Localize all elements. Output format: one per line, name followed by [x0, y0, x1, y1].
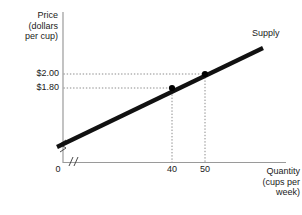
- x-tick-label-qty-50: 50: [195, 164, 215, 175]
- data-point-40-180: [169, 85, 175, 91]
- x-axis-break-icon: [69, 157, 78, 166]
- y-axis-title: Price (dollars per cup): [0, 10, 58, 42]
- origin-label: 0: [52, 164, 64, 175]
- x-axis-title: Quantity (cups per week): [220, 166, 300, 198]
- y-tick-label-price-180: $1.80: [14, 82, 59, 93]
- x-tick-label-qty-40: 40: [162, 164, 182, 175]
- supply-curve-figure: Price (dollars per cup) Quantity (cups p…: [0, 0, 302, 215]
- data-point-50-200: [202, 71, 208, 77]
- y-tick-label-price-200: $2.00: [14, 68, 59, 79]
- supply-curve-line: [57, 48, 263, 147]
- supply-curve-label: Supply: [252, 28, 298, 39]
